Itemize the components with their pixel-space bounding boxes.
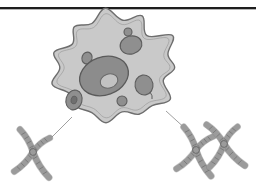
connector-lines xyxy=(51,111,188,138)
chromosome-group-right xyxy=(176,122,245,176)
organelle-small-top xyxy=(124,28,132,36)
amoeboid-cell xyxy=(52,8,175,122)
chromosome-group-left xyxy=(14,129,55,177)
chromosomes xyxy=(14,122,245,177)
centromere xyxy=(220,140,227,147)
organelle-bottom-center xyxy=(117,96,127,106)
centromere xyxy=(29,148,37,156)
connector-left xyxy=(51,117,72,138)
cell-chromosome-diagram xyxy=(0,0,256,190)
chromosome-arm xyxy=(224,143,245,167)
chromosome xyxy=(14,129,55,177)
chromosome xyxy=(207,122,245,168)
figure-root xyxy=(0,0,256,190)
